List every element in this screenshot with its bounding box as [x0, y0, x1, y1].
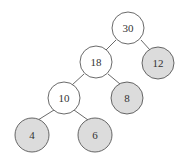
- node-label: 8: [124, 92, 130, 104]
- node-10: 10: [48, 82, 80, 114]
- node-4: 4: [15, 118, 49, 152]
- edge-18-10: [72, 74, 84, 85]
- node-label: 6: [92, 129, 98, 141]
- tree-diagram: 30 18 12 10 8 4 6: [0, 0, 183, 160]
- node-label: 10: [59, 92, 71, 104]
- edge-18-8: [108, 74, 120, 84]
- node-6: 6: [78, 118, 112, 152]
- edge-30-12: [141, 40, 150, 50]
- node-8: 8: [111, 82, 143, 114]
- edge-10-4: [38, 110, 54, 120]
- edge-10-6: [74, 110, 88, 120]
- node-18: 18: [80, 46, 112, 78]
- node-label: 18: [91, 56, 103, 68]
- edge-30-18: [106, 40, 116, 50]
- node-label: 30: [123, 22, 135, 34]
- node-label: 12: [153, 57, 164, 69]
- node-30: 30: [112, 12, 144, 44]
- node-label: 4: [29, 129, 35, 141]
- node-12: 12: [142, 47, 174, 79]
